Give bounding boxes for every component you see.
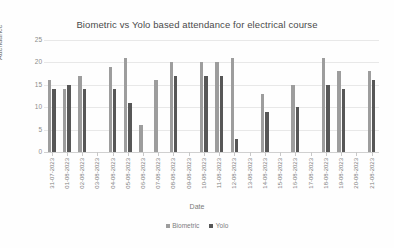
bar-group[interactable]: [105, 40, 120, 152]
bar-yolo[interactable]: [128, 103, 131, 152]
bar-yolo[interactable]: [220, 76, 223, 152]
x-axis-tick-label: 08-08-2023: [166, 158, 181, 202]
bar-group[interactable]: [151, 40, 166, 152]
bar-series-area: [44, 40, 379, 152]
bar-yolo[interactable]: [83, 89, 86, 152]
bar-group[interactable]: [44, 40, 59, 152]
bar-group[interactable]: [135, 40, 150, 152]
y-axis-tick-label: 5: [38, 126, 42, 134]
bar-biometric[interactable]: [291, 85, 294, 152]
y-axis-label: Attendance: [0, 25, 3, 60]
bar-biometric[interactable]: [48, 80, 51, 152]
bar-group[interactable]: [196, 40, 211, 152]
y-axis-tick-label: 0: [38, 148, 42, 156]
bar-biometric[interactable]: [109, 67, 112, 152]
bar-group[interactable]: [333, 40, 348, 152]
bar-group[interactable]: [273, 40, 288, 152]
x-axis-tick-label: 09-08-2023: [181, 158, 196, 202]
bar-group[interactable]: [212, 40, 227, 152]
bar-biometric[interactable]: [78, 76, 81, 152]
y-axis-tick-label: 10: [35, 103, 42, 111]
bar-biometric[interactable]: [231, 58, 234, 152]
x-axis-tick-label: 21-08-2023: [364, 158, 379, 202]
plot-area: [44, 40, 379, 152]
x-axis-tick-label: 10-08-2023: [196, 158, 211, 202]
legend-item-yolo[interactable]: Yolo: [209, 222, 228, 229]
x-axis-tick-label: 31-07-2023: [44, 158, 59, 202]
x-axis-tick-label: 12-08-2023: [227, 158, 242, 202]
bar-biometric[interactable]: [170, 62, 173, 152]
bar-biometric[interactable]: [368, 71, 371, 152]
x-axis-tick-label: 06-08-2023: [135, 158, 150, 202]
x-axis-tick-label: 20-08-2023: [349, 158, 364, 202]
legend-swatch-icon: [209, 224, 213, 228]
bar-yolo[interactable]: [342, 89, 345, 152]
bar-group[interactable]: [90, 40, 105, 152]
bar-group[interactable]: [303, 40, 318, 152]
bar-biometric[interactable]: [63, 89, 66, 152]
x-axis-tick-label: 03-08-2023: [90, 158, 105, 202]
bar-yolo[interactable]: [67, 85, 70, 152]
bar-biometric[interactable]: [124, 58, 127, 152]
x-axis-tick-label: 16-08-2023: [288, 158, 303, 202]
x-axis-tick-label: 15-08-2023: [273, 158, 288, 202]
bar-yolo[interactable]: [113, 89, 116, 152]
bar-biometric[interactable]: [261, 94, 264, 152]
bar-group[interactable]: [364, 40, 379, 152]
x-axis-labels: 31-07-202301-08-202302-08-202303-08-2023…: [44, 158, 379, 202]
bar-group[interactable]: [166, 40, 181, 152]
bar-yolo[interactable]: [296, 107, 299, 152]
bar-group[interactable]: [227, 40, 242, 152]
bar-group[interactable]: [288, 40, 303, 152]
bar-group[interactable]: [59, 40, 74, 152]
x-axis-tick-label: 18-08-2023: [318, 158, 333, 202]
bar-group[interactable]: [257, 40, 272, 152]
bar-yolo[interactable]: [326, 85, 329, 152]
bar-biometric[interactable]: [154, 80, 157, 152]
bar-biometric[interactable]: [215, 62, 218, 152]
bar-biometric[interactable]: [139, 125, 142, 152]
x-axis-tick-label: 19-08-2023: [333, 158, 348, 202]
y-axis-tick-label: 20: [35, 58, 42, 66]
x-axis-tick-label: 17-08-2023: [303, 158, 318, 202]
legend-label: Yolo: [216, 222, 228, 229]
bar-biometric[interactable]: [337, 71, 340, 152]
y-axis-ticks: 0510152025: [14, 34, 42, 158]
bar-yolo[interactable]: [174, 76, 177, 152]
x-axis-tick-label: 13-08-2023: [242, 158, 257, 202]
bar-biometric[interactable]: [322, 58, 325, 152]
chart-legend: BiometricYolo: [0, 222, 394, 229]
bar-yolo[interactable]: [265, 112, 268, 152]
x-axis-tick-label: 07-08-2023: [151, 158, 166, 202]
bar-biometric[interactable]: [200, 62, 203, 152]
bar-group[interactable]: [120, 40, 135, 152]
bar-group[interactable]: [318, 40, 333, 152]
x-axis-tick-label: 14-08-2023: [257, 158, 272, 202]
x-axis-tick-label: 04-08-2023: [105, 158, 120, 202]
x-axis-label: Date: [0, 203, 394, 210]
x-axis-tick-label: 01-08-2023: [59, 158, 74, 202]
bar-group[interactable]: [181, 40, 196, 152]
bar-yolo[interactable]: [372, 80, 375, 152]
bar-group[interactable]: [349, 40, 364, 152]
chart-title: Biometric vs Yolo based attendance for e…: [0, 19, 394, 30]
bar-yolo[interactable]: [52, 89, 55, 152]
bar-group[interactable]: [242, 40, 257, 152]
x-axis-tick-label: 02-08-2023: [74, 158, 89, 202]
y-axis-tick-label: 15: [35, 81, 42, 89]
bar-yolo[interactable]: [204, 76, 207, 152]
legend-item-biometric[interactable]: Biometric: [166, 222, 200, 229]
chart-container: Biometric vs Yolo based attendance for e…: [0, 0, 394, 248]
legend-label: Biometric: [172, 222, 199, 229]
bar-yolo[interactable]: [235, 139, 238, 152]
x-axis-tick-label: 11-08-2023: [212, 158, 227, 202]
bar-group[interactable]: [74, 40, 89, 152]
x-axis-tick-label: 05-08-2023: [120, 158, 135, 202]
legend-swatch-icon: [166, 224, 170, 228]
y-axis-tick-label: 25: [35, 36, 42, 44]
